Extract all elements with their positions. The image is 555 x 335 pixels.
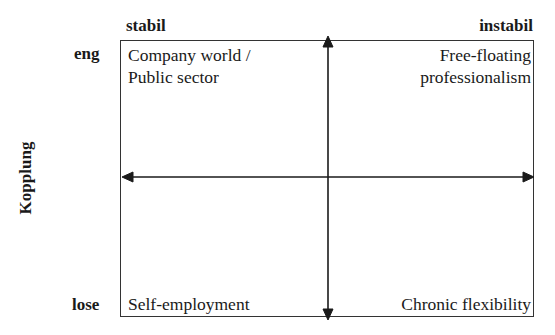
axis-arrows <box>0 0 555 335</box>
vertical-double-arrow-icon <box>323 36 333 320</box>
